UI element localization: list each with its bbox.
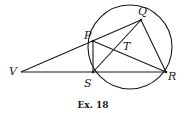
label-T: T — [123, 40, 132, 53]
point-R-dot — [165, 71, 168, 74]
point-S-dot — [92, 71, 95, 74]
label-V: V — [9, 65, 18, 78]
point-Q-dot — [140, 19, 143, 22]
diagram-canvas: V P Q R S T Ex. 18 — [0, 0, 186, 113]
label-P: P — [83, 29, 92, 42]
segment-QR — [141, 20, 166, 72]
label-R: R — [167, 70, 176, 83]
figure-caption: Ex. 18 — [77, 100, 108, 110]
geometry-figure: V P Q R S T Ex. 18 — [0, 0, 186, 113]
label-S: S — [84, 77, 92, 90]
point-P-dot — [92, 40, 95, 43]
label-Q: Q — [138, 5, 147, 18]
segment-SQ — [93, 20, 141, 72]
